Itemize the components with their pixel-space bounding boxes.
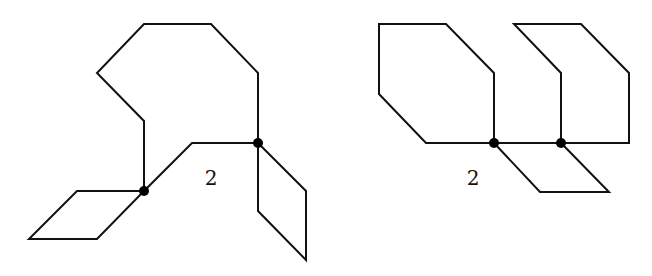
diagram-canvas: 2 2	[0, 0, 652, 276]
left-figure: 2	[29, 24, 306, 260]
right-vertex-dot	[489, 138, 499, 148]
left-face-label: 2	[205, 166, 218, 190]
left-edge-path	[29, 191, 144, 239]
right-face-label: 2	[467, 166, 480, 190]
left-edge-path	[144, 143, 258, 191]
right-figure: 2	[379, 24, 629, 192]
right-edge-path	[514, 24, 629, 143]
left-edge-path	[97, 24, 258, 191]
right-edge-path	[494, 143, 609, 192]
left-edge-path	[258, 143, 306, 260]
left-vertex-dot	[139, 186, 149, 196]
left-vertex-dot	[253, 138, 263, 148]
right-edge-path	[379, 24, 494, 143]
right-vertex-dot	[556, 138, 566, 148]
